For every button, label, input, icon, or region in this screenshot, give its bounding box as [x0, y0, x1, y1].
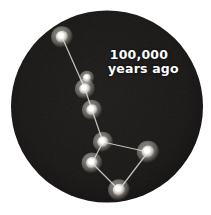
star-highlight — [84, 75, 88, 79]
sky-disc-texture — [11, 8, 203, 205]
star-highlight — [115, 186, 121, 192]
star-highlight — [99, 138, 104, 143]
star-highlight — [81, 85, 86, 90]
star-highlight — [58, 33, 64, 39]
constellation-figure: 100,000 years ago — [0, 0, 211, 215]
night-sky-diagram — [0, 0, 211, 215]
star-highlight — [144, 148, 150, 154]
star-highlight — [88, 106, 93, 111]
star-highlight — [88, 159, 93, 164]
